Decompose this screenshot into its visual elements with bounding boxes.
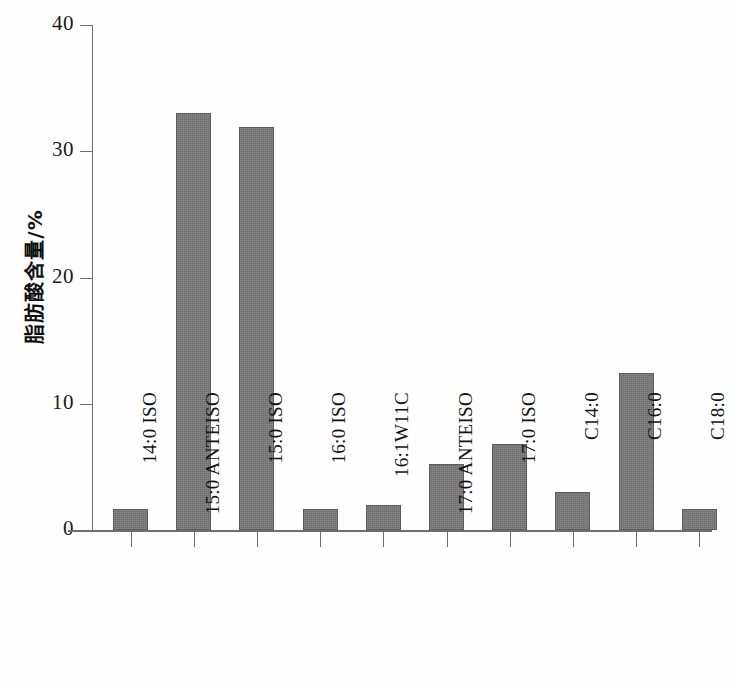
x-axis-label: C16:0	[644, 392, 666, 552]
y-axis-tick-label: 0	[30, 516, 74, 541]
x-axis-tick	[510, 532, 511, 547]
y-axis-title: 脂肪酸含量/%	[19, 192, 48, 362]
x-axis-line	[68, 530, 712, 532]
x-axis-tick	[131, 532, 132, 547]
x-axis-label: 17:0 ISO	[518, 392, 540, 552]
x-axis-label: 16:0 ISO	[328, 392, 350, 552]
x-axis-tick	[699, 532, 700, 547]
x-axis-label: C14:0	[581, 392, 603, 552]
y-axis-tick	[80, 278, 92, 279]
x-axis-label: 15:0 ANTEISO	[202, 392, 224, 552]
x-axis-tick	[320, 532, 321, 547]
y-axis-tick-label: 30	[30, 137, 74, 162]
x-axis-tick	[636, 532, 637, 547]
y-axis-tick-label: 40	[30, 11, 74, 36]
x-axis-tick	[383, 532, 384, 547]
x-axis-tick	[447, 532, 448, 547]
x-axis-tick	[573, 532, 574, 547]
x-axis-tick	[257, 532, 258, 547]
x-axis-label: 17:0 ANTEISO	[455, 392, 477, 552]
x-axis-tick	[194, 532, 195, 547]
x-axis-label: 16:1W11C	[391, 392, 413, 552]
y-axis-tick	[80, 151, 92, 152]
y-axis-tick-label: 10	[30, 390, 74, 415]
y-axis-line	[92, 25, 93, 531]
x-axis-label: 14:0 ISO	[139, 392, 161, 552]
x-axis-label: 15:0 ISO	[265, 392, 287, 552]
x-axis-label: C18:0	[707, 392, 729, 552]
y-axis-tick	[80, 404, 92, 405]
y-axis-tick	[80, 25, 92, 26]
